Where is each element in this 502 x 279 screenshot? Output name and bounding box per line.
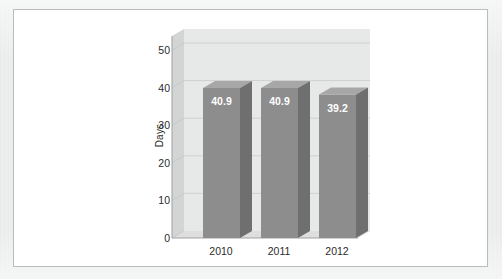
bar-side-face: [240, 81, 252, 238]
bar-value-label: 39.2: [327, 102, 348, 114]
figure-frame: Days 0 10 20 30 40 50: [13, 9, 488, 267]
left-side-wall: [172, 29, 184, 238]
bar-front-face: [261, 88, 298, 238]
bar-side-face: [356, 88, 368, 239]
x-axis-tick-labels: 2010 2011 2012: [14, 245, 489, 261]
bar-2011[interactable]: 40.9: [261, 81, 310, 238]
bar-front-face: [203, 88, 240, 238]
bar-chart: Days 0 10 20 30 40 50: [14, 10, 489, 268]
bar-2012[interactable]: 39.2: [319, 88, 368, 239]
plot-area: 40.9 40.9 39.2: [14, 10, 489, 268]
page-background: Days 0 10 20 30 40 50: [0, 0, 502, 279]
bar-front-face: [319, 95, 356, 239]
x-tick-label: 2011: [253, 245, 305, 257]
x-tick-label: 2012: [311, 245, 363, 257]
bar-side-face: [298, 81, 310, 238]
bar-value-label: 40.9: [211, 95, 232, 107]
x-tick-label: 2010: [195, 245, 247, 257]
bar-value-label: 40.9: [269, 95, 290, 107]
bar-2010[interactable]: 40.9: [203, 81, 252, 238]
